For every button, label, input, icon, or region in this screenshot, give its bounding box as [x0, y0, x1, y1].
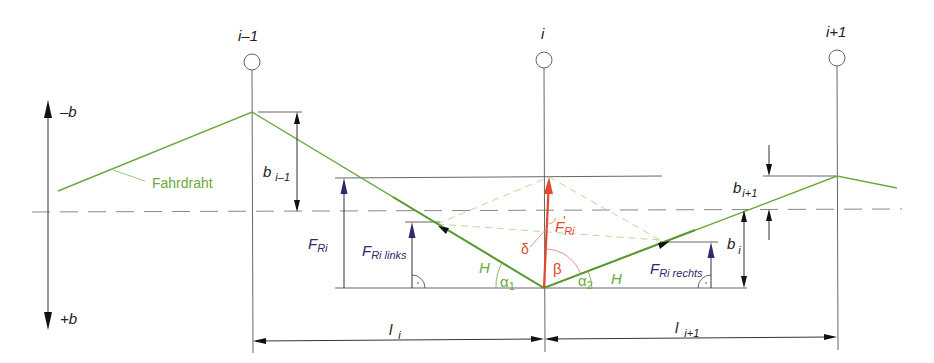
tension-arrow-right-icon: [658, 241, 670, 249]
dim-b-i: bi: [727, 235, 741, 256]
arrow-right-icon: [824, 334, 837, 340]
tension-arrow-left-icon: [438, 226, 449, 234]
tension-label-right: H: [611, 270, 622, 287]
force-arrow-up-icon: [409, 222, 416, 238]
arrow-up-icon: [44, 100, 52, 118]
arrow-left-icon: [253, 338, 266, 344]
pole-top-icon: [244, 54, 260, 70]
arrow-up-icon: [766, 209, 772, 221]
force-label-F-Ri-prime: FRi′: [555, 213, 575, 237]
right-angle-icon: [412, 275, 425, 288]
angle-label-delta: δ: [521, 241, 529, 257]
pole-label-i-plus-1: i+1: [826, 23, 846, 40]
arrow-down-icon: [294, 200, 300, 212]
force-arrow-up-icon: [341, 178, 348, 194]
arrow-up-icon: [294, 112, 300, 124]
force-label-F-Ri-links: FRi links: [362, 242, 407, 261]
wire-label: Fahrdraht: [152, 175, 213, 191]
angle-label-beta: β: [553, 260, 562, 277]
pole-i: [536, 52, 552, 352]
arrow-right-icon: [531, 336, 544, 342]
pole-label-i: i: [541, 25, 545, 42]
track-centerline: [32, 209, 902, 212]
wire-label-leader: [113, 170, 145, 181]
force-arrow-up-icon: [708, 242, 715, 258]
arrow-down-icon: [741, 276, 747, 288]
axis-label-minus-b: –b: [59, 103, 77, 120]
dim-l-i-plus-1: li+1: [675, 319, 699, 339]
angle-beta-arc: [546, 249, 581, 275]
arrow-down-icon: [766, 164, 772, 176]
dim-b-i-minus-1: bi–1: [263, 163, 290, 183]
axis-label-plus-b: +b: [60, 310, 77, 327]
arrow-down-icon: [44, 312, 52, 330]
pole-top-icon: [829, 50, 845, 66]
angle-label-alpha2: α2: [578, 272, 593, 291]
dim-l-i: li: [389, 321, 401, 341]
contact-wire: [58, 112, 897, 288]
contact-wire-force-diagram: i–1 i i+1 –b +b Fahrdraht bi–1 FRi FRi l…: [0, 0, 934, 363]
pole-top-icon: [536, 52, 552, 68]
angle-label-alpha1: α1: [500, 273, 515, 292]
force-label-F-Ri-rechts: FRi rechts: [650, 260, 703, 279]
dim-b-i-plus-1: bi+1: [733, 179, 757, 199]
pole-i-plus-1: [829, 50, 845, 350]
force-label-F-Ri: FRi: [308, 235, 328, 254]
pole-label-i-minus-1: i–1: [238, 27, 258, 44]
arrow-left-icon: [545, 336, 558, 342]
tension-label-left: H: [479, 259, 490, 276]
resultant-arrowhead-icon: [544, 177, 553, 194]
pole-i-minus-1: [244, 54, 260, 353]
